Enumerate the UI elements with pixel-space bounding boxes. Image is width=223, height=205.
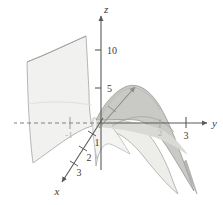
tick-label-y-neg1: -1 bbox=[65, 130, 73, 140]
plot-canvas: z y x 10 5 3 2 -1 1 2 3 bbox=[0, 0, 223, 205]
tick-label-x-2: 2 bbox=[87, 152, 92, 163]
tick-label-y-2: 2 bbox=[158, 128, 163, 138]
axis-label-x: x bbox=[54, 185, 60, 197]
axis-label-z: z bbox=[103, 3, 109, 15]
x-tick-2 bbox=[79, 146, 87, 151]
tick-label-z-10: 10 bbox=[107, 45, 117, 56]
surface-left-wing bbox=[27, 36, 92, 163]
x-tick-3 bbox=[70, 161, 78, 166]
surface-plot-figure: z y x 10 5 3 2 -1 1 2 3 bbox=[0, 0, 223, 205]
tick-label-x-3: 3 bbox=[77, 167, 82, 178]
tick-label-z-5: 5 bbox=[107, 83, 112, 94]
tick-label-x-1: 1 bbox=[95, 137, 100, 148]
axis-label-y: y bbox=[211, 117, 217, 129]
tick-label-y-3: 3 bbox=[184, 130, 189, 141]
